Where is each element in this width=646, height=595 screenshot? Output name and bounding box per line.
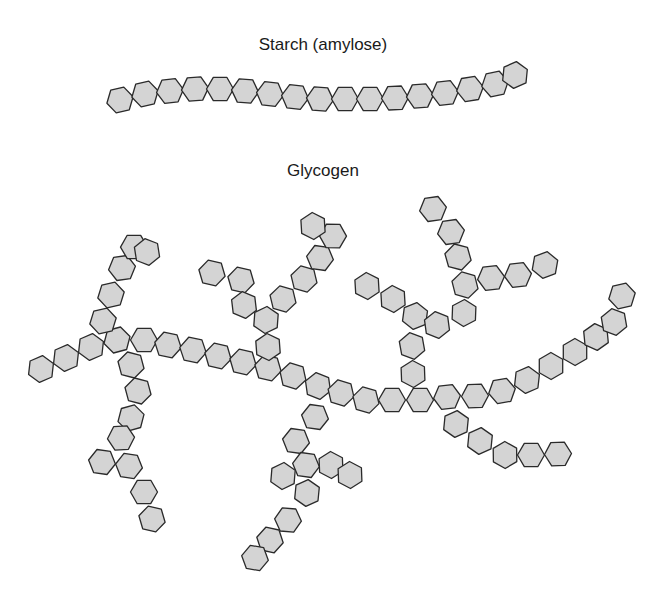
glucose-unit-icon — [54, 345, 79, 372]
glucose-unit-icon — [457, 76, 484, 101]
glucose-unit-icon — [381, 286, 405, 313]
starch-amylose-chain — [107, 62, 527, 113]
glucose-unit-icon — [275, 508, 302, 532]
glucose-unit-icon — [107, 87, 133, 113]
glucose-unit-icon — [434, 385, 461, 410]
glucose-unit-icon — [125, 378, 151, 404]
glucose-unit-icon — [493, 442, 517, 469]
glucose-unit-icon — [407, 388, 434, 411]
glucose-unit-icon — [382, 86, 409, 110]
glucose-unit-icon — [291, 266, 317, 292]
glucose-unit-icon — [399, 333, 424, 360]
glucose-unit-icon — [444, 411, 469, 438]
glucose-unit-icon — [478, 266, 505, 291]
amylose-chain — [107, 62, 527, 113]
glucose-unit-icon — [452, 300, 476, 327]
glucose-unit-icon — [90, 308, 116, 334]
glucose-unit-icon — [180, 337, 206, 363]
glucose-unit-icon — [230, 349, 256, 375]
glucose-unit-icon — [601, 309, 626, 336]
glucose-unit-icon — [379, 388, 406, 411]
glucose-unit-icon — [420, 197, 447, 222]
branch-upper-right-side — [478, 252, 558, 291]
glucose-unit-icon — [139, 506, 165, 532]
glucose-unit-icon — [29, 356, 54, 383]
glucose-unit-icon — [355, 273, 379, 300]
glucose-unit-icon — [438, 220, 465, 245]
glucose-unit-icon — [539, 353, 562, 380]
glucose-unit-icon — [131, 328, 158, 351]
glucose-unit-icon — [505, 263, 532, 288]
branch-upper-mid-right — [270, 213, 347, 313]
glucose-unit-icon — [353, 387, 379, 413]
glucose-unit-icon — [293, 453, 320, 478]
glucose-unit-icon — [452, 272, 478, 298]
glucose-unit-icon — [332, 87, 359, 110]
glucose-unit-icon — [256, 334, 280, 361]
glucose-unit-icon — [302, 405, 329, 430]
glucose-unit-icon — [468, 428, 493, 455]
glycogen-branched-structure — [29, 197, 636, 571]
glucose-unit-icon — [157, 79, 184, 104]
glucose-unit-icon — [403, 303, 428, 330]
glucose-unit-icon — [89, 450, 116, 475]
glucose-unit-icon — [283, 429, 310, 454]
glucose-unit-icon — [254, 307, 278, 334]
glucose-unit-icon — [98, 282, 124, 308]
glucose-unit-icon — [207, 77, 234, 100]
glucose-unit-icon — [242, 545, 269, 570]
branch-upper-left — [90, 235, 160, 334]
glucose-unit-icon — [425, 312, 450, 339]
branch-center-down — [242, 405, 329, 571]
glucose-unit-icon — [228, 267, 254, 293]
glucose-unit-icon — [407, 84, 434, 108]
glucose-unit-icon — [609, 283, 635, 309]
glucose-unit-icon — [131, 480, 158, 503]
glucose-unit-icon — [132, 81, 158, 107]
glucose-unit-icon — [280, 363, 306, 389]
glucose-unit-icon — [489, 378, 516, 403]
glucose-unit-icon — [232, 292, 257, 319]
glucose-unit-icon — [563, 339, 586, 366]
branch-lower-right — [444, 411, 572, 469]
glucose-unit-icon — [307, 87, 334, 111]
glucose-unit-icon — [515, 367, 540, 394]
glucose-unit-icon — [328, 380, 354, 406]
glucose-unit-icon — [205, 343, 231, 369]
glucose-unit-icon — [445, 244, 471, 270]
glucose-unit-icon — [462, 384, 489, 408]
polysaccharide-diagram — [0, 0, 646, 595]
glucose-unit-icon — [270, 286, 296, 312]
glucose-unit-icon — [232, 79, 259, 103]
glucose-unit-icon — [401, 361, 425, 388]
glucose-unit-icon — [518, 443, 545, 466]
glucose-unit-icon — [357, 87, 384, 110]
branch-lower-left — [89, 352, 166, 532]
glucose-unit-icon — [257, 82, 284, 107]
glucose-unit-icon — [545, 442, 572, 466]
glucose-unit-icon — [307, 246, 334, 271]
glucose-unit-icon — [182, 77, 209, 101]
glucose-unit-icon — [116, 453, 143, 478]
glucose-unit-icon — [118, 352, 144, 378]
glucose-unit-icon — [532, 252, 557, 279]
glucose-unit-icon — [306, 373, 331, 400]
glucose-unit-icon — [155, 332, 181, 358]
glucose-unit-icon — [79, 334, 104, 361]
glucose-unit-icon — [432, 81, 459, 106]
branch-upper-right-left — [355, 273, 450, 388]
branch-upper-right-up — [420, 197, 478, 327]
glucose-unit-icon — [295, 480, 320, 507]
glucose-unit-icon — [282, 85, 309, 110]
glucose-unit-icon — [199, 260, 225, 286]
glucose-unit-icon — [271, 463, 295, 490]
branch-center-right — [319, 452, 362, 489]
